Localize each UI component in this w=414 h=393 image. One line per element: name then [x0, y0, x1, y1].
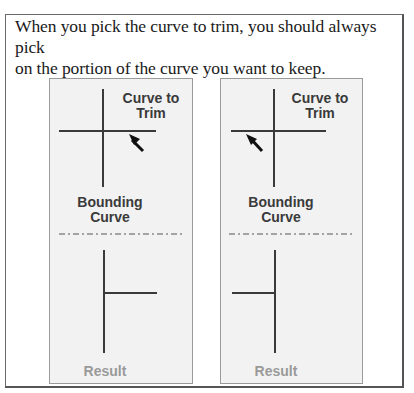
- bounding-curve-label: Bounding Curve: [241, 195, 321, 225]
- pick-arrow-icon: [129, 134, 143, 151]
- left-diagram: [50, 79, 194, 385]
- bounding-curve-label: Bounding Curve: [70, 195, 150, 225]
- pick-arrow-icon: [246, 134, 262, 151]
- right-trim-example-panel: Curve to Trim Bounding Curve Result: [220, 78, 363, 384]
- right-diagram: [221, 79, 364, 385]
- curve-to-trim-label: Curve to Trim: [285, 91, 355, 121]
- caption-line-2: on the portion of the curve you want to …: [15, 58, 407, 79]
- result-label: Result: [70, 364, 140, 379]
- result-label: Result: [241, 364, 311, 379]
- caption-line-1: When you pick the curve to trim, you sho…: [15, 16, 407, 58]
- figure-caption: When you pick the curve to trim, you sho…: [15, 16, 407, 79]
- curve-to-trim-label: Curve to Trim: [116, 91, 186, 121]
- left-trim-example-panel: Curve to Trim Bounding Curve Result: [49, 78, 193, 384]
